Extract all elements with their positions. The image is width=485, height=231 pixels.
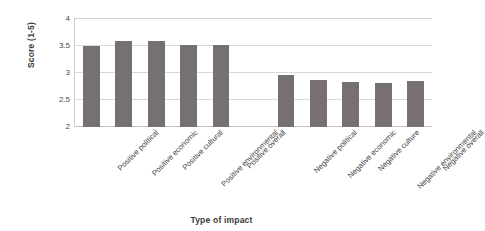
x-axis-tick-labels: Positive politicalPositive economicPosit…	[74, 128, 431, 206]
bar-slot	[75, 18, 107, 127]
y-tick-label-4: 4	[52, 15, 70, 23]
bar-slot	[237, 18, 269, 127]
bar-slot	[367, 18, 399, 127]
y-tick-label-3.5: 3.5	[52, 42, 70, 50]
bar-slot	[270, 18, 302, 127]
plot-area	[74, 18, 432, 127]
y-axis-title: Score (1-5)	[26, 0, 36, 100]
y-tick-label-2: 2	[52, 123, 70, 131]
bar[interactable]	[148, 41, 165, 127]
bar-slot	[302, 18, 334, 127]
bar-series	[75, 18, 432, 127]
y-tick-label-2.5: 2.5	[52, 96, 70, 104]
bar[interactable]	[115, 41, 132, 127]
x-tick-label: Negative overall	[440, 128, 485, 173]
bar-slot	[335, 18, 367, 127]
x-axis-title: Type of impact	[0, 215, 443, 225]
bar[interactable]	[180, 45, 197, 127]
bar[interactable]	[342, 82, 359, 127]
bar-slot	[400, 18, 432, 127]
bar[interactable]	[407, 81, 424, 127]
y-tick-label-3: 3	[52, 69, 70, 77]
bar[interactable]	[278, 75, 295, 127]
bar[interactable]	[83, 46, 100, 127]
bar-slot	[140, 18, 172, 127]
x-tick-label: Negative culture	[376, 128, 421, 173]
bar-slot	[107, 18, 139, 127]
bar-slot	[172, 18, 204, 127]
bar-slot	[205, 18, 237, 127]
bar[interactable]	[375, 83, 392, 127]
bar[interactable]	[310, 80, 327, 127]
bar[interactable]	[213, 45, 230, 127]
